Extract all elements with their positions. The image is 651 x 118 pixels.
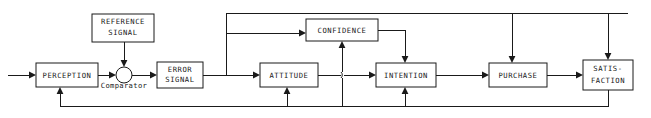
node-satisfaction[interactable]: SATIS- FACTION — [583, 60, 633, 90]
node-perception-label: PERCEPTION — [43, 71, 92, 80]
wire-feedback-to-intention — [402, 87, 409, 106]
node-reference-signal-label-line1: REFERENCE — [101, 17, 145, 26]
wire-bottom-feedback-bus — [60, 90, 608, 106]
node-error-signal[interactable]: ERROR SIGNAL — [157, 62, 203, 88]
wire-intention-to-purchase — [436, 72, 489, 79]
node-intention-label: INTENTION — [384, 71, 428, 80]
node-attitude-label: ATTITUDE — [269, 71, 308, 80]
wire-reference-to-comparator — [121, 42, 128, 67]
wire-comparator-to-error-signal — [132, 72, 157, 79]
node-purchase[interactable]: PURCHASE — [489, 63, 547, 87]
node-reference-signal[interactable]: REFERENCE SIGNAL — [92, 14, 154, 42]
wire-attitude-to-intention — [318, 72, 376, 79]
wire-feedback-to-perception — [57, 87, 64, 106]
wire-top-bus-to-satisfaction — [605, 13, 612, 60]
wire-input-to-perception — [8, 72, 36, 79]
wire-purchase-to-satisfaction — [547, 72, 583, 79]
node-comparator-label: Comparator — [101, 81, 148, 90]
block-diagram-svg: PERCEPTION REFERENCE SIGNAL Comparator E… — [0, 0, 651, 118]
node-error-signal-label-line1: ERROR — [168, 65, 193, 74]
node-confidence[interactable]: CONFIDENCE — [306, 19, 378, 41]
wire-feedback-to-attitude — [284, 87, 291, 106]
wire-perception-to-comparator — [98, 72, 116, 79]
node-reference-signal-label-line2: SIGNAL — [108, 28, 137, 37]
node-attitude[interactable]: ATTITUDE — [260, 63, 318, 87]
node-satisfaction-label-line2: FACTION — [591, 76, 625, 85]
node-perception[interactable]: PERCEPTION — [36, 63, 98, 87]
wire-confidence-to-intention — [378, 30, 408, 63]
node-intention[interactable]: INTENTION — [376, 63, 436, 87]
wire-top-bus-to-purchase — [509, 13, 516, 63]
node-error-signal-label-line2: SIGNAL — [165, 75, 194, 84]
node-satisfaction-label-line1: SATIS- — [593, 64, 622, 73]
node-purchase-label: PURCHASE — [498, 71, 537, 80]
node-confidence-label: CONFIDENCE — [318, 26, 367, 35]
node-comparator[interactable]: Comparator — [101, 67, 148, 90]
block-diagram-canvas: PERCEPTION REFERENCE SIGNAL Comparator E… — [0, 0, 651, 118]
